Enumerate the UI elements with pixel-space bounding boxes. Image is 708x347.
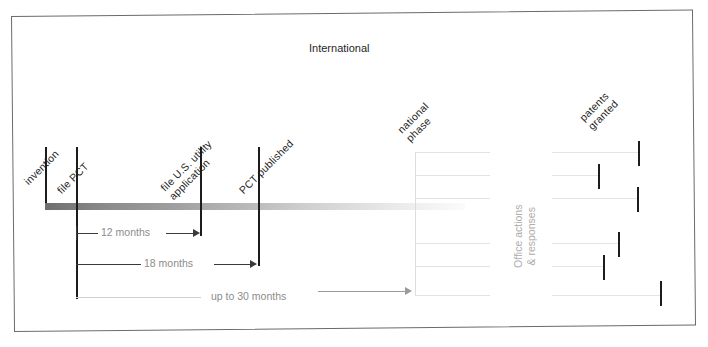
national-phase-branch — [415, 295, 490, 296]
diagram-border — [11, 9, 696, 332]
national-phase-branch — [415, 266, 490, 267]
measure-12-line-right — [166, 233, 196, 234]
patent-grant-tick — [638, 141, 640, 166]
timeline-bar — [45, 203, 465, 210]
measure-18-line-left — [76, 264, 141, 265]
patent-grant-tick — [618, 232, 620, 257]
patent-grant-tick — [603, 255, 605, 280]
measure-30-line-right — [318, 291, 408, 292]
measure-18-line-right — [214, 264, 254, 265]
office-actions-label: Office actions & responses — [512, 205, 538, 268]
measure-12-label: 12 months — [101, 226, 150, 238]
patent-grant-branch — [552, 295, 660, 296]
national-phase-branch — [415, 198, 490, 199]
patent-grant-branch — [552, 198, 637, 199]
measure-18-label: 18 months — [144, 257, 193, 269]
patent-grant-branch — [552, 243, 618, 244]
measure-30-line-left — [76, 297, 201, 298]
measure-12-arrowhead — [193, 229, 200, 237]
measure-18-arrowhead — [250, 260, 257, 268]
national-phase-branch — [415, 175, 490, 176]
national-phase-branch — [415, 243, 490, 244]
patent-timeline-diagram: International invention file PCT file U.… — [0, 0, 708, 347]
measure-30-label: up to 30 months — [211, 290, 286, 302]
office-actions-label-line1: Office actions — [512, 205, 525, 268]
diagram-heading: International — [309, 42, 370, 54]
national-phase-spine — [415, 152, 416, 295]
patent-grant-tick — [637, 187, 639, 212]
patent-grant-branch — [552, 175, 598, 176]
measure-30-arrowhead — [405, 287, 412, 295]
patent-grant-branch — [552, 152, 638, 153]
measure-12-line-left — [76, 233, 98, 234]
office-actions-label-line2: & responses — [525, 205, 538, 268]
patent-grant-tick — [598, 164, 600, 189]
patent-grant-tick — [660, 281, 662, 306]
national-phase-branch — [415, 152, 490, 153]
patent-grant-branch — [552, 266, 603, 267]
